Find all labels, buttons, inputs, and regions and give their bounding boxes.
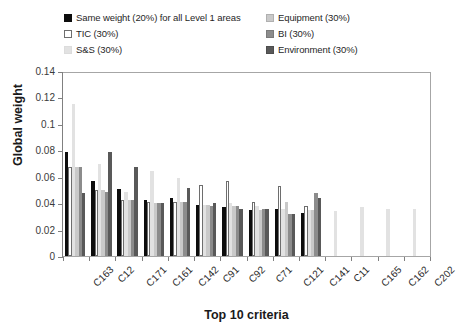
x-axis-tick xyxy=(89,257,90,261)
bar-group xyxy=(353,72,377,256)
x-axis-tick xyxy=(168,257,169,261)
x-axis-tick-label: C71 xyxy=(273,264,294,285)
y-axis-tick-label: 0.02 xyxy=(15,226,55,236)
x-axis-tick xyxy=(325,257,326,261)
bar-group xyxy=(144,72,168,256)
x-axis-tick-label: C92 xyxy=(247,264,268,285)
x-axis-tick xyxy=(378,257,379,261)
legend-item-same-weight: Same weight (20%) for all Level 1 areas xyxy=(64,10,260,26)
bar-group xyxy=(222,72,246,256)
bar-group xyxy=(65,72,89,256)
x-axis-tick-label: C161 xyxy=(170,264,195,289)
legend-item-environment: Environment (30%) xyxy=(266,42,404,58)
bar xyxy=(265,209,268,256)
y-axis-tick xyxy=(58,204,62,205)
bar-group xyxy=(117,72,141,256)
bar xyxy=(187,188,190,256)
bar xyxy=(386,209,389,256)
x-axis-tick-label: C171 xyxy=(144,264,169,289)
legend-swatch-tic xyxy=(64,30,72,38)
bar-group xyxy=(327,72,351,256)
legend-swatch-same-weight xyxy=(64,14,72,22)
x-axis-title: Top 10 criteria xyxy=(63,308,430,322)
x-axis-tick xyxy=(63,257,64,261)
legend-swatch-bi xyxy=(266,30,274,38)
bar xyxy=(82,193,85,256)
bar-group xyxy=(275,72,299,256)
y-axis-tick xyxy=(58,72,62,73)
bar xyxy=(318,198,321,256)
y-axis-tick-label: 0.04 xyxy=(15,199,55,209)
bar xyxy=(334,211,337,256)
bar-group xyxy=(380,72,404,256)
x-axis-tick xyxy=(194,257,195,261)
x-axis-tick-label: C141 xyxy=(327,264,352,289)
x-axis-tick-label: C163 xyxy=(91,264,116,289)
x-axis-tick-label: C11 xyxy=(351,264,371,284)
y-axis-tick xyxy=(58,151,62,152)
legend-label-bi: BI (30%) xyxy=(278,29,314,39)
legend-item-ss: S&S (30%) xyxy=(64,42,260,58)
y-axis-tick xyxy=(58,257,62,258)
legend-label-environment: Environment (30%) xyxy=(278,45,358,55)
bar-series-layer xyxy=(63,72,430,256)
bar-group xyxy=(249,72,273,256)
y-axis-title: Global weight xyxy=(11,55,25,195)
y-axis-tick xyxy=(58,125,62,126)
x-axis-tick xyxy=(351,257,352,261)
legend-label-tic: TIC (30%) xyxy=(76,29,118,39)
x-axis-tick-label: C142 xyxy=(196,264,221,289)
x-axis-tick xyxy=(273,257,274,261)
bar xyxy=(134,167,137,256)
x-axis-tick-label: C165 xyxy=(379,264,404,289)
legend-label-equipment: Equipment (30%) xyxy=(278,13,350,23)
y-axis-tick-label: 0 xyxy=(15,252,55,262)
bar xyxy=(108,152,111,256)
x-axis-tick-label: C121 xyxy=(301,264,326,289)
x-axis-tick xyxy=(220,257,221,261)
bar-group xyxy=(301,72,325,256)
bar xyxy=(292,214,295,256)
x-axis-tick-label: C12 xyxy=(116,264,137,285)
x-axis-tick xyxy=(299,257,300,261)
legend-swatch-equipment xyxy=(266,14,274,22)
bar xyxy=(161,203,164,256)
legend-label-ss: S&S (30%) xyxy=(76,45,122,55)
x-axis-tick-label: C91 xyxy=(221,264,242,285)
x-axis-tick xyxy=(142,257,143,261)
y-axis-tick xyxy=(58,98,62,99)
bar-group xyxy=(91,72,115,256)
bar xyxy=(413,209,416,256)
y-axis-tick xyxy=(58,231,62,232)
x-axis-labels: C163C12C171C161C142C91C92C71C121C141C11C… xyxy=(63,262,430,306)
legend-item-equipment: Equipment (30%) xyxy=(266,10,404,26)
bar-group xyxy=(406,72,430,256)
legend-swatch-environment xyxy=(266,46,274,54)
legend-label-same-weight: Same weight (20%) for all Level 1 areas xyxy=(76,13,241,23)
legend-item-tic: TIC (30%) xyxy=(64,26,260,42)
x-axis-tick xyxy=(404,257,405,261)
x-axis-tick xyxy=(247,257,248,261)
bar-group xyxy=(196,72,220,256)
bar-group xyxy=(170,72,194,256)
y-axis-tick xyxy=(58,178,62,179)
x-axis-tick xyxy=(430,257,431,261)
x-axis-tick xyxy=(115,257,116,261)
bar xyxy=(213,203,216,256)
bar xyxy=(360,207,363,256)
legend-swatch-ss xyxy=(64,46,72,54)
bar xyxy=(239,209,242,256)
chart-legend: Same weight (20%) for all Level 1 areas … xyxy=(64,10,404,58)
x-axis-tick-label: C162 xyxy=(406,264,431,289)
x-axis-tick-label: C202 xyxy=(432,264,457,289)
legend-item-bi: BI (30%) xyxy=(266,26,404,42)
